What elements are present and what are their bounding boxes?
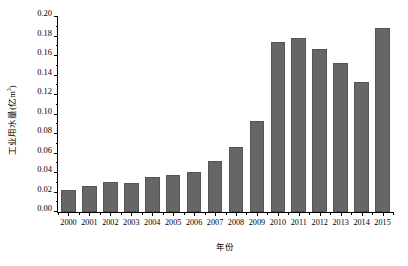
bar	[312, 49, 327, 212]
y-axis-tick	[54, 94, 58, 95]
x-axis-minor-tick	[267, 212, 268, 215]
x-axis-tick	[299, 212, 300, 216]
y-axis-minor-tick	[56, 84, 59, 85]
x-axis-minor-tick	[184, 212, 185, 215]
bar	[82, 186, 97, 212]
y-axis-minor-tick	[56, 162, 59, 163]
x-axis-minor-tick	[288, 212, 289, 215]
y-axis-tick-label: 0.08	[37, 125, 52, 135]
x-axis-tick	[383, 212, 384, 216]
x-axis-minor-tick	[121, 212, 122, 215]
x-axis-tick	[110, 212, 111, 216]
y-axis-tick	[54, 172, 58, 173]
y-axis-tick	[54, 16, 58, 17]
x-axis-tick-label: 2003	[123, 218, 139, 227]
y-axis-tick	[54, 133, 58, 134]
y-axis-tick-label: 0.00	[37, 203, 52, 213]
x-axis-minor-tick	[142, 212, 143, 215]
x-axis-title: 年份	[57, 240, 393, 252]
bar	[291, 38, 306, 212]
x-axis-tick-label: 2009	[249, 218, 265, 227]
y-axis-tick-label: 0.04	[37, 164, 52, 174]
y-axis-tick	[54, 114, 58, 115]
y-axis-tick-label: 0.02	[37, 184, 52, 194]
x-axis-tick-label: 2004	[144, 218, 160, 227]
x-axis-minor-tick	[351, 212, 352, 215]
plot-area: 0.000.020.040.060.080.100.120.140.160.18…	[57, 17, 393, 213]
x-axis-tick-label: 2008	[228, 218, 244, 227]
x-axis-tick	[152, 212, 153, 216]
bar	[103, 182, 118, 212]
y-axis-tick-label: 0.14	[37, 67, 52, 77]
x-axis-tick-label: 2010	[270, 218, 286, 227]
x-axis-tick-label: 2001	[81, 218, 97, 227]
x-axis-tick	[215, 212, 216, 216]
y-axis-tick	[54, 153, 58, 154]
x-axis-minor-tick	[393, 212, 394, 215]
x-axis-tick	[68, 212, 69, 216]
bar	[124, 183, 139, 212]
y-axis-tick-label: 0.10	[37, 106, 52, 116]
x-axis-tick-label: 2012	[312, 218, 328, 227]
x-axis-minor-tick	[100, 212, 101, 215]
y-axis-tick-label: 0.06	[37, 145, 52, 155]
y-axis-title-tail: )	[7, 85, 17, 88]
bar	[187, 172, 202, 212]
bar	[333, 63, 348, 212]
y-axis-tick	[54, 192, 58, 193]
y-axis-minor-tick	[56, 104, 59, 105]
x-axis-tick-label: 2007	[207, 218, 223, 227]
y-axis-minor-tick	[56, 182, 59, 183]
bar	[354, 82, 369, 212]
chart-figure: 工业用水量(亿m3) 0.000.020.040.060.080.100.120…	[0, 0, 408, 266]
x-axis-tick	[173, 212, 174, 216]
x-axis-tick	[278, 212, 279, 216]
y-axis-tick-label: 0.12	[37, 86, 52, 96]
y-axis-tick	[54, 75, 58, 76]
x-axis-tick-label: 2015	[374, 218, 390, 227]
x-axis-tick	[236, 212, 237, 216]
y-axis-tick	[54, 36, 58, 37]
x-axis-tick-label: 2013	[332, 218, 348, 227]
x-axis-tick	[362, 212, 363, 216]
x-axis-tick	[89, 212, 90, 216]
y-axis-tick-label: 0.18	[37, 28, 52, 38]
bar	[145, 177, 160, 212]
x-axis-minor-tick	[205, 212, 206, 215]
y-axis-minor-tick	[56, 26, 59, 27]
x-axis-minor-tick	[330, 212, 331, 215]
x-axis-tick-label: 2005	[165, 218, 181, 227]
bar	[250, 121, 265, 212]
x-axis-minor-tick	[246, 212, 247, 215]
x-axis-minor-tick	[226, 212, 227, 215]
x-axis-tick	[341, 212, 342, 216]
y-axis-tick-label: 0.20	[37, 8, 52, 18]
x-axis-tick	[257, 212, 258, 216]
y-axis-tick-label: 0.16	[37, 47, 52, 57]
x-axis-tick-label: 2014	[353, 218, 369, 227]
bar	[271, 42, 286, 212]
x-axis-tick-label: 2011	[291, 218, 307, 227]
x-axis-minor-tick	[163, 212, 164, 215]
x-axis-tick-label: 2000	[60, 218, 76, 227]
x-axis-tick	[194, 212, 195, 216]
x-axis-tick-label: 2002	[102, 218, 118, 227]
y-axis-minor-tick	[56, 201, 59, 202]
y-axis-minor-tick	[56, 65, 59, 66]
x-axis-tick	[320, 212, 321, 216]
x-axis-tick-label: 2006	[186, 218, 202, 227]
y-axis-title-main: 工业用水量(亿m	[7, 91, 17, 154]
bar	[208, 161, 223, 212]
y-axis-minor-tick	[56, 123, 59, 124]
x-axis-minor-tick	[309, 212, 310, 215]
bar	[166, 175, 181, 212]
x-axis-minor-tick	[79, 212, 80, 215]
y-axis-tick	[54, 55, 58, 56]
bar	[229, 147, 244, 212]
bar	[375, 28, 390, 212]
y-axis-title-superscript: 3	[6, 88, 12, 91]
y-axis-minor-tick	[56, 143, 59, 144]
x-axis-tick	[131, 212, 132, 216]
bar	[61, 190, 76, 212]
x-axis-minor-tick	[58, 212, 59, 215]
